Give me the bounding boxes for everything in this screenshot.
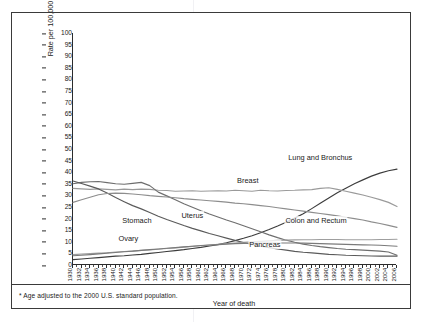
- x-minor-tick-mark: [315, 265, 316, 267]
- x-tick-label: 1962: [202, 268, 209, 281]
- x-tick-label: 1936: [92, 268, 99, 281]
- y-tick-label: 65: [46, 111, 72, 118]
- y-tick-label: 25: [46, 203, 72, 210]
- y-tick-label: 20: [46, 215, 72, 222]
- x-minor-tick-mark: [221, 265, 222, 267]
- x-minor-tick-mark: [119, 265, 120, 267]
- x-minor-tick-mark: [392, 265, 393, 267]
- y-tick-label: 70: [46, 99, 72, 106]
- x-tick-label: 1968: [228, 268, 235, 281]
- series-line: [73, 169, 397, 259]
- y-tick-label: 100: [46, 29, 72, 36]
- y-tick-label: 30: [46, 192, 72, 199]
- x-tick-label: 1998: [356, 268, 363, 281]
- y-tick-mark: [42, 91, 46, 92]
- x-tick-label: 1986: [305, 268, 312, 281]
- x-minor-tick-mark: [196, 265, 197, 267]
- y-tick-label: 80: [46, 76, 72, 83]
- series-label: Lung and Bronchus: [287, 153, 353, 162]
- y-tick-label: 90: [46, 53, 72, 60]
- x-tick-label: 1932: [75, 268, 82, 281]
- x-tick-label: 1944: [126, 268, 133, 281]
- x-tick-label: 1974: [254, 268, 261, 281]
- chart-lines: [73, 33, 397, 265]
- x-minor-tick-mark: [383, 265, 384, 267]
- y-tick-mark: [42, 265, 46, 266]
- y-tick-mark: [42, 103, 46, 104]
- y-tick-mark: [42, 230, 46, 231]
- x-tick-label: 2000: [364, 268, 371, 281]
- x-minor-tick-mark: [281, 265, 282, 267]
- x-tick-label: 1982: [288, 268, 295, 281]
- y-tick-mark: [42, 184, 46, 185]
- y-tick-label: 5: [46, 250, 72, 257]
- y-tick-label: 40: [46, 169, 72, 176]
- x-minor-tick-mark: [238, 265, 239, 267]
- x-tick-label: 1970: [237, 268, 244, 281]
- y-tick-label: 60: [46, 122, 72, 129]
- footnote-bar: * Age adjusted to the 2000 U.S. standard…: [11, 284, 411, 309]
- series-label: Uterus: [180, 211, 204, 220]
- series-label: Colon and Rectum: [284, 216, 347, 225]
- y-tick-label: 45: [46, 157, 72, 164]
- x-minor-tick-mark: [170, 265, 171, 267]
- x-minor-tick-mark: [247, 265, 248, 267]
- x-minor-tick-mark: [255, 265, 256, 267]
- y-tick-mark: [42, 253, 46, 254]
- series-label: Breast: [236, 176, 259, 185]
- x-tick-label: 1996: [347, 268, 354, 281]
- x-minor-tick-mark: [144, 265, 145, 267]
- x-minor-tick-mark: [110, 265, 111, 267]
- x-minor-tick-mark: [358, 265, 359, 267]
- x-tick-label: 2002: [373, 268, 380, 281]
- x-tick-label: 1956: [177, 268, 184, 281]
- x-minor-tick-mark: [298, 265, 299, 267]
- x-minor-tick-mark: [289, 265, 290, 267]
- x-tick-label: 1948: [143, 268, 150, 281]
- x-tick-label: 1934: [83, 268, 90, 281]
- y-tick-label: 35: [46, 180, 72, 187]
- x-minor-tick-mark: [213, 265, 214, 267]
- x-tick-label: 1992: [330, 268, 337, 281]
- x-tick-label: 1952: [160, 268, 167, 281]
- y-tick-mark: [42, 56, 46, 57]
- x-tick-label: 1990: [322, 268, 329, 281]
- x-tick-label: 1942: [117, 268, 124, 281]
- y-tick-mark: [42, 126, 46, 127]
- y-tick-mark: [42, 114, 46, 115]
- series-label: Ovary: [118, 234, 140, 243]
- x-minor-tick-mark: [153, 265, 154, 267]
- y-tick-label: 75: [46, 87, 72, 94]
- x-minor-tick-mark: [366, 265, 367, 267]
- y-tick-mark: [42, 45, 46, 46]
- x-tick-label: 1930: [66, 268, 73, 281]
- x-minor-tick-mark: [93, 265, 94, 267]
- y-tick-label: 95: [46, 41, 72, 48]
- y-tick-mark: [42, 68, 46, 69]
- x-minor-tick-mark: [230, 265, 231, 267]
- footnote-text: * Age adjusted to the 2000 U.S. standard…: [19, 292, 178, 299]
- y-tick-mark: [42, 33, 46, 34]
- x-tick-label: 1940: [109, 268, 116, 281]
- x-tick-label: 1994: [339, 268, 346, 281]
- x-minor-tick-mark: [349, 265, 350, 267]
- y-tick-mark: [42, 207, 46, 208]
- x-tick-label: 1984: [296, 268, 303, 281]
- x-tick-label: 1988: [313, 268, 320, 281]
- x-minor-tick-mark: [102, 265, 103, 267]
- x-tick-label: 1978: [271, 268, 278, 281]
- x-tick-label: 1976: [262, 268, 269, 281]
- x-tick-label: 1958: [185, 268, 192, 281]
- y-tick-mark: [42, 161, 46, 162]
- y-tick-mark: [42, 242, 46, 243]
- x-tick-label: 1980: [279, 268, 286, 281]
- x-minor-tick-mark: [179, 265, 180, 267]
- y-tick-label: 85: [46, 64, 72, 71]
- x-tick-label: 1954: [168, 268, 175, 281]
- y-tick-mark: [42, 219, 46, 220]
- y-tick-label: 50: [46, 145, 72, 152]
- y-tick-mark: [42, 137, 46, 138]
- x-minor-tick-mark: [136, 265, 137, 267]
- y-tick-mark: [42, 79, 46, 80]
- x-minor-tick-mark: [332, 265, 333, 267]
